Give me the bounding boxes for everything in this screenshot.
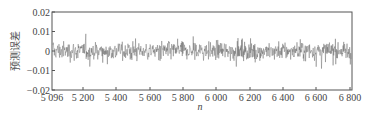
error-series-line — [53, 34, 351, 69]
y-tick-label: 0.02 — [33, 7, 51, 18]
x-tick-label: 5 200 — [72, 92, 95, 103]
y-axis-title-text: 预测误差 — [9, 31, 21, 71]
plot-frame — [52, 12, 352, 90]
x-tick-label: 6 800 — [339, 92, 362, 103]
x-axis-title: n — [198, 101, 203, 112]
x-tick-label: 5 600 — [139, 92, 162, 103]
y-axis-title: 预测误差 — [9, 31, 21, 71]
x-tick-label: 5 800 — [172, 92, 195, 103]
x-tick-label: 6 200 — [239, 92, 262, 103]
y-tick-label: 0.01 — [33, 26, 51, 37]
y-axis: 0.020.010−0.01−0.02 — [27, 7, 55, 96]
x-tick-label: 6 600 — [305, 92, 328, 103]
y-tick-label: 0 — [45, 46, 50, 57]
x-tick-label: 5 400 — [105, 92, 128, 103]
prediction-error-chart: 预测误差 0.020.010−0.01−0.02 5 0965 2005 400… — [0, 0, 371, 120]
y-tick-label: −0.01 — [27, 65, 50, 76]
x-tick-label: 6 000 — [205, 92, 228, 103]
x-tick-label: 5 096 — [41, 92, 64, 103]
x-tick-label: 6 400 — [272, 92, 295, 103]
error-polyline — [53, 34, 351, 69]
